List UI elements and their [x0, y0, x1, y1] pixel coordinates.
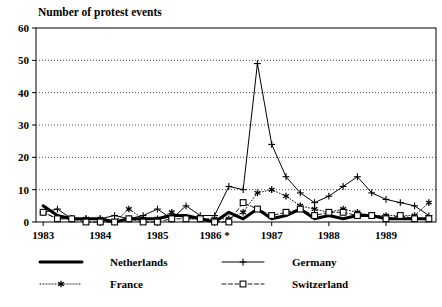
datapoint-switzerland-7 — [140, 219, 146, 225]
y-axis: 0102030405060 — [18, 22, 36, 228]
y-tick-label-50: 50 — [18, 54, 30, 66]
x-tick-label-1983: 1983 — [32, 229, 55, 241]
datapoint-switzerland-5 — [112, 219, 118, 225]
datapoint-switzerland-10 — [183, 216, 189, 222]
legend-label-germany: Germany — [292, 256, 337, 268]
x-tick-label-1984: 1984 — [89, 229, 112, 241]
legend-label-france: France — [110, 278, 143, 290]
datapoint-switzerland-14 — [240, 200, 246, 206]
x-tick-label-1989: 1989 — [375, 229, 398, 241]
datapoint-germany-20 — [325, 193, 332, 200]
datapoint-switzerland-26 — [412, 216, 418, 222]
series-line-germany — [43, 64, 429, 219]
legend-label-switzerland: Switzerland — [292, 278, 348, 290]
legend-item-netherlands[interactable]: Netherlands — [40, 256, 168, 268]
datapoint-switzerland-25 — [397, 213, 403, 219]
datapoint-switzerland-16 — [269, 213, 275, 219]
datapoint-switzerland-24 — [383, 216, 389, 222]
legend-label-netherlands: Netherlands — [110, 256, 168, 268]
datapoint-switzerland-2 — [69, 216, 75, 222]
x-tick-label-1985: 1985 — [146, 229, 169, 241]
datapoint-switzerland-18 — [297, 206, 303, 212]
datapoint-germany-5 — [111, 212, 118, 219]
legend-marker-switzerland — [240, 281, 246, 287]
series-switzerland — [40, 200, 432, 225]
datapoint-switzerland-20 — [326, 209, 332, 215]
chart-svg: Number of protest events 0102030405060 1… — [0, 0, 442, 307]
chart-title: Number of protest events — [38, 6, 162, 19]
y-tick-label-30: 30 — [18, 119, 30, 131]
datapoint-france-19 — [312, 206, 318, 213]
datapoint-switzerland-1 — [55, 216, 61, 222]
series-germany — [40, 60, 433, 222]
protest-events-chart: Number of protest events 0102030405060 1… — [0, 0, 442, 307]
datapoint-switzerland-23 — [369, 213, 375, 219]
datapoint-germany-26 — [411, 202, 418, 209]
datapoint-switzerland-21 — [340, 209, 346, 215]
datapoint-switzerland-0 — [40, 209, 46, 215]
datapoint-switzerland-6 — [126, 216, 132, 222]
chart-legend: NetherlandsGermanyFranceSwitzerland — [40, 256, 348, 290]
x-tick-label-1987: 1987 — [261, 229, 284, 241]
datapoint-germany-15 — [254, 60, 261, 67]
datapoint-switzerland-3 — [83, 219, 89, 225]
datapoint-germany-14 — [240, 186, 247, 193]
legend-item-france[interactable]: France — [40, 278, 143, 290]
datapoint-switzerland-27 — [426, 216, 432, 222]
legend-item-switzerland[interactable]: Switzerland — [222, 278, 348, 290]
datapoint-germany-16 — [268, 141, 275, 148]
datapoint-germany-8 — [154, 206, 161, 213]
datapoint-france-17 — [283, 193, 289, 200]
y-tick-label-20: 20 — [18, 151, 30, 163]
y-tick-label-40: 40 — [18, 87, 30, 99]
x-tick-label-1988: 1988 — [318, 229, 341, 241]
legend-marker-germany — [240, 259, 247, 266]
datapoint-switzerland-22 — [355, 213, 361, 219]
datapoint-germany-19 — [311, 199, 318, 206]
y-tick-label-0: 0 — [24, 216, 30, 228]
datapoint-switzerland-17 — [283, 209, 289, 215]
datapoint-switzerland-8 — [155, 219, 161, 225]
x-tick-label-1986-: 1986 * — [199, 229, 230, 241]
datapoint-switzerland-9 — [169, 216, 175, 222]
datapoint-france-6 — [126, 206, 132, 213]
y-tick-label-60: 60 — [18, 22, 30, 34]
datapoint-germany-24 — [383, 196, 390, 203]
datapoint-switzerland-13 — [226, 219, 232, 225]
datapoint-switzerland-19 — [312, 213, 318, 219]
datapoint-switzerland-15 — [255, 206, 261, 212]
series-layer — [40, 60, 433, 225]
datapoint-switzerland-11 — [197, 216, 203, 222]
datapoint-germany-13 — [225, 183, 232, 190]
datapoint-switzerland-12 — [212, 219, 218, 225]
legend-item-germany[interactable]: Germany — [222, 256, 337, 268]
datapoint-germany-21 — [340, 183, 347, 190]
datapoint-germany-1 — [54, 206, 61, 213]
datapoint-switzerland-4 — [97, 219, 103, 225]
y-tick-label-10: 10 — [18, 184, 30, 196]
datapoint-germany-25 — [397, 199, 404, 206]
gridlines — [36, 60, 436, 189]
